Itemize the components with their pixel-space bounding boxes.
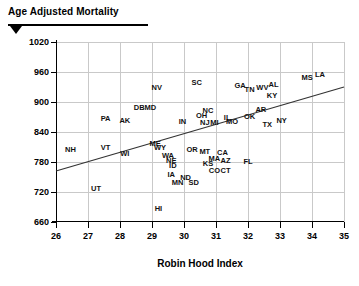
data-point-in: IN bbox=[179, 118, 187, 126]
data-point-or: OR bbox=[186, 146, 197, 154]
x-tick bbox=[88, 222, 89, 228]
data-point-pa: PA bbox=[101, 115, 111, 123]
chart-root: Age Adjusted Mortality 26272829303132333… bbox=[0, 0, 359, 286]
data-point-mo: MO bbox=[226, 118, 238, 126]
x-tick-label: 29 bbox=[147, 231, 157, 241]
x-tick-label: 28 bbox=[115, 231, 125, 241]
x-tick-label: 33 bbox=[275, 231, 285, 241]
data-point-wi: WI bbox=[120, 150, 129, 158]
x-tick bbox=[312, 222, 313, 228]
data-point-hi: HI bbox=[155, 205, 163, 213]
data-point-la: LA bbox=[315, 71, 325, 79]
x-tick-label: 34 bbox=[307, 231, 317, 241]
data-point-nc: NC bbox=[203, 107, 214, 115]
data-point-ny: NY bbox=[276, 117, 286, 125]
y-tick-label: 720 bbox=[34, 187, 49, 197]
data-point-ms: MS bbox=[302, 74, 313, 82]
y-tick-label: 960 bbox=[34, 67, 49, 77]
data-point-nj: NJ bbox=[200, 119, 210, 127]
data-point-tn: TN bbox=[245, 86, 255, 94]
x-tick-label: 27 bbox=[83, 231, 93, 241]
data-point-ok: OK bbox=[244, 113, 255, 121]
x-tick bbox=[248, 222, 249, 228]
data-point-ut: UT bbox=[91, 185, 101, 193]
data-point-sd: SD bbox=[188, 179, 198, 187]
y-tick-label: 1020 bbox=[29, 37, 49, 47]
data-point-ky: KY bbox=[267, 92, 277, 100]
data-point-ak: AK bbox=[119, 117, 130, 125]
x-tick bbox=[152, 222, 153, 228]
data-point-md: MD bbox=[145, 104, 157, 112]
data-point-tx: TX bbox=[262, 121, 272, 129]
data-point-vt: VT bbox=[101, 144, 111, 152]
x-tick-label: 30 bbox=[179, 231, 189, 241]
data-point-al: AL bbox=[269, 81, 279, 89]
x-tick bbox=[344, 222, 345, 228]
data-point-co: CO bbox=[209, 167, 220, 175]
title-underline bbox=[8, 24, 148, 26]
data-point-fl: FL bbox=[243, 158, 252, 166]
y-tick-label: 840 bbox=[34, 127, 49, 137]
x-tick bbox=[120, 222, 121, 228]
x-axis-title: Robin Hood Index bbox=[56, 258, 344, 269]
data-point-ar: AR bbox=[255, 106, 266, 114]
data-point-id: ID bbox=[169, 162, 177, 170]
data-point-az: AZ bbox=[221, 157, 231, 165]
plot-area: 2627282930313233343566072078084090096010… bbox=[56, 42, 344, 222]
y-tick-label: 780 bbox=[34, 157, 49, 167]
data-point-nh: NH bbox=[65, 146, 76, 154]
page-title: Age Adjusted Mortality bbox=[8, 6, 150, 18]
x-tick-label: 35 bbox=[339, 231, 349, 241]
data-points: NHUTPAVTAKWIDBMDNVMEWYHIWANEIAIDMNINNDSD… bbox=[56, 42, 344, 222]
y-tick-label: 900 bbox=[34, 97, 49, 107]
data-point-ct: CT bbox=[221, 167, 231, 175]
gridline-vertical bbox=[344, 42, 345, 222]
x-tick bbox=[216, 222, 217, 228]
data-point-mi: MI bbox=[210, 119, 218, 127]
chart-title-block: Age Adjusted Mortality bbox=[8, 6, 150, 18]
data-point-sc: SC bbox=[192, 79, 202, 87]
x-tick bbox=[184, 222, 185, 228]
triangle-down-icon bbox=[10, 26, 22, 34]
data-point-nv: NV bbox=[152, 84, 162, 92]
y-tick-label: 660 bbox=[34, 217, 49, 227]
x-tick-label: 32 bbox=[243, 231, 253, 241]
x-tick bbox=[280, 222, 281, 228]
x-tick-label: 26 bbox=[51, 231, 61, 241]
x-tick-label: 31 bbox=[211, 231, 221, 241]
data-point-db: DB bbox=[134, 104, 145, 112]
